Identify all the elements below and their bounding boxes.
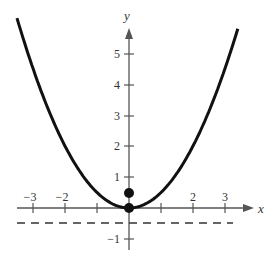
- parabola-curve: [17, 18, 238, 208]
- y-tick-label-neg1: −1: [107, 232, 120, 246]
- y-tick-label-4: 4: [114, 78, 120, 92]
- x-axis-label: x: [257, 201, 264, 216]
- parabola-chart: x y −3 −2 2 3 5 4 3 2 1 −1: [0, 0, 276, 261]
- x-tick-label-2: 2: [190, 190, 196, 204]
- x-axis-arrow-icon: [243, 204, 254, 212]
- focus-point: [124, 188, 134, 198]
- y-axis-arrow-icon: [125, 28, 133, 39]
- y-tick-label-5: 5: [114, 47, 120, 61]
- x-tick-label-neg3: −3: [24, 190, 37, 204]
- x-tick-label-3: 3: [222, 190, 228, 204]
- x-tick-label-neg2: −2: [56, 190, 69, 204]
- y-tick-label-1: 1: [114, 170, 120, 184]
- vertex-point: [124, 203, 134, 213]
- y-axis-label: y: [122, 8, 130, 23]
- y-tick-label-3: 3: [114, 109, 120, 123]
- y-tick-label-2: 2: [114, 139, 120, 153]
